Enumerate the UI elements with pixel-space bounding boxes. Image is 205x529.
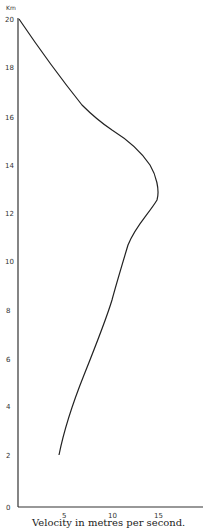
x-axis-title: Velocity in metres per second.: [31, 517, 185, 528]
svg-text:2: 2: [6, 452, 10, 460]
svg-text:8: 8: [6, 307, 10, 315]
svg-text:14: 14: [5, 162, 14, 170]
y-unit-label: Km: [6, 4, 16, 11]
svg-text:18: 18: [5, 64, 14, 72]
y-tick-labels: 0 2 4 6 8 10 12 14 16 18 20: [5, 16, 14, 512]
svg-text:4: 4: [6, 403, 11, 411]
velocity-height-chart: Km 0 2 4 6 8 10 12 14 16 18 20 5 10 15 V…: [0, 0, 205, 529]
svg-text:0: 0: [6, 504, 10, 512]
velocity-curve: [19, 19, 158, 455]
svg-text:20: 20: [5, 16, 14, 24]
svg-text:6: 6: [6, 356, 11, 364]
svg-text:10: 10: [5, 258, 14, 266]
svg-text:12: 12: [5, 210, 14, 218]
svg-text:16: 16: [5, 114, 14, 122]
